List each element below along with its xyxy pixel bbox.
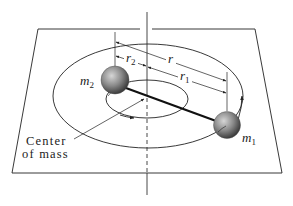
mass-m2-sphere bbox=[101, 66, 129, 94]
label-center-line2: of mass bbox=[22, 147, 69, 161]
label-m1: m1 bbox=[242, 130, 256, 147]
label-m2: m2 bbox=[80, 73, 94, 90]
label-center-line1: Center bbox=[26, 134, 67, 148]
dimension-extensions bbox=[115, 32, 227, 111]
label-r1: r1 bbox=[180, 68, 190, 85]
orbit-diagram: m2 m1 r r2 r1 Center of mass bbox=[0, 0, 293, 206]
connecting-rod bbox=[115, 84, 227, 125]
label-r2: r2 bbox=[126, 50, 136, 67]
center-of-mass-pointer bbox=[74, 99, 144, 139]
mass-m1-sphere bbox=[214, 112, 241, 139]
